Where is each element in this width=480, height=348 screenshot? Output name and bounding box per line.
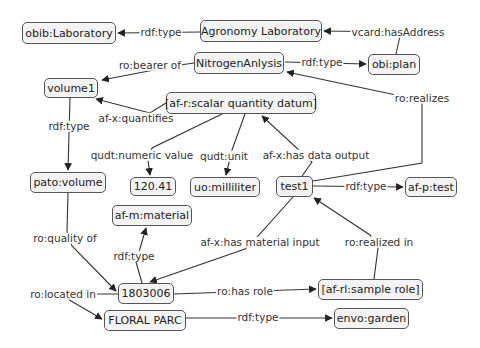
edge-rdf-type-volume1	[68, 98, 70, 170]
node-test1[interactable]: test1	[276, 176, 313, 197]
node-floral-parc[interactable]: FLORAL PARC	[104, 310, 186, 331]
node-obi-plan[interactable]: obi:plan	[368, 54, 420, 75]
edge-label-ro-realized-in: ro:realized in	[344, 237, 414, 248]
edge-label-ro-has-role: ro:has role	[216, 286, 274, 297]
node-pato-volume[interactable]: pato:volume	[30, 172, 106, 193]
edge-af-x-has-data-output	[262, 116, 312, 176]
edge-label-rdf-type-volume1: rdf:type	[47, 121, 90, 132]
node-agronomy-laboratory[interactable]: Agronomy Laboratory	[200, 20, 322, 42]
node-volume1[interactable]: volume1	[44, 78, 98, 98]
node-obib-laboratory[interactable]: obib:Laboratory	[22, 22, 116, 44]
edge-label-vcard-hasaddress: vcard:hasAddress	[350, 27, 445, 38]
edge-label-rdf-type-test1: rdf:type	[344, 181, 387, 192]
node-sample-1803006[interactable]: 1803006	[118, 283, 174, 304]
edge-label-qudt-unit: qudt:unit	[199, 151, 249, 162]
edge-label-af-x-quantifies: af-x:quantifies	[97, 113, 174, 124]
node-value-120-41[interactable]: 120.41	[130, 177, 176, 196]
edge-label-rdf-type-nitrogen: rdf:type	[300, 57, 343, 68]
concept-map-canvas: rdf:type vcard:hasAddress rdf:type ro:be…	[0, 0, 480, 348]
edge-label-ro-located-in: ro:located in	[29, 289, 97, 300]
node-nitrogen-anlysis[interactable]: NitrogenAnlysis	[194, 52, 284, 74]
edge-label-rdf-type-floral-parc: rdf:type	[236, 312, 279, 323]
edge-label-af-x-has-data-output: af-x:has data output	[262, 150, 371, 161]
edge-label-ro-bearer-of: ro:bearer of	[118, 60, 182, 71]
edge-label-ro-quality-of: ro:quality of	[32, 233, 97, 244]
node-uo-milliliter[interactable]: uo:milliliter	[190, 177, 260, 197]
edge-qudt-unit	[226, 114, 245, 175]
edge-ro-realizes	[287, 72, 422, 181]
edge-label-rdf-type-1803006: rdf:type	[112, 251, 155, 262]
node-scalar-quantity-datum[interactable]: [af-r:scalar quantity datum]	[166, 92, 316, 114]
node-envo-garden[interactable]: envo:garden	[334, 308, 409, 329]
edge-label-af-x-has-material-input: af-x:has material input	[199, 237, 320, 248]
node-sample-role[interactable]: [af-rl:sample role]	[318, 279, 423, 300]
edge-label-ro-realizes: ro:realizes	[394, 93, 450, 104]
edge-label-rdf-type-agronomy: rdf:type	[139, 27, 182, 38]
edge-label-qudt-numeric-value: qudt:numeric value	[90, 150, 195, 161]
node-af-m-material[interactable]: af-m:material	[112, 205, 192, 226]
node-af-p-test[interactable]: af-p:test	[405, 177, 457, 197]
